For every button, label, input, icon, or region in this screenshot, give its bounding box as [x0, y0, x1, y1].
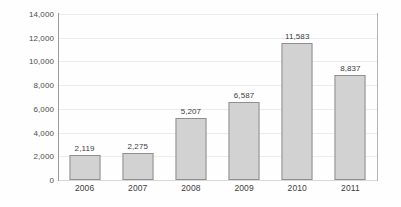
plot-right-border — [377, 13, 378, 181]
bar-value-label: 2,119 — [75, 144, 95, 153]
x-axis-tick-label: 2009 — [218, 183, 271, 193]
bar[interactable] — [175, 118, 206, 180]
x-axis-tick-label: 2011 — [324, 183, 377, 193]
bar-group: 6,587 — [218, 14, 271, 180]
bar[interactable] — [335, 75, 366, 180]
bar[interactable] — [282, 43, 313, 180]
bar-value-label: 6,587 — [234, 91, 255, 100]
plot-area: 2,1192,2755,2076,58711,5838,837 — [58, 14, 377, 180]
y-axis-tick-label: 0 — [0, 176, 54, 185]
y-axis-tick-label: 6,000 — [0, 104, 54, 113]
bar-value-label: 2,275 — [127, 142, 148, 151]
y-axis-tick-label: 8,000 — [0, 81, 54, 90]
bar[interactable] — [229, 102, 260, 180]
bar-group: 2,275 — [111, 14, 164, 180]
y-axis-tick-label: 14,000 — [0, 10, 54, 19]
bar-value-label: 8,837 — [340, 64, 361, 73]
y-axis-tick-label: 2,000 — [0, 152, 54, 161]
x-axis-tick-labels: 200620072008200920102011 — [58, 183, 377, 199]
x-axis-tick-label: 2006 — [58, 183, 111, 193]
y-axis-tick-label: 12,000 — [0, 33, 54, 42]
bar-group: 11,583 — [271, 14, 324, 180]
bar[interactable] — [122, 153, 153, 180]
bar-group: 2,119 — [58, 14, 111, 180]
bar-value-label: 11,583 — [285, 32, 309, 41]
bar-group: 5,207 — [164, 14, 217, 180]
y-axis-tick-label: 10,000 — [0, 57, 54, 66]
bar-group: 8,837 — [324, 14, 377, 180]
bar-value-label: 5,207 — [181, 107, 202, 116]
x-axis-tick-label: 2007 — [111, 183, 164, 193]
x-axis-tick-label: 2008 — [164, 183, 217, 193]
gridline — [58, 180, 377, 181]
bar[interactable] — [69, 155, 100, 180]
bar-chart-figure: 2,1192,2755,2076,58711,5838,837 20062007… — [0, 0, 401, 207]
y-axis-line — [58, 13, 59, 181]
x-axis-tick-label: 2010 — [271, 183, 324, 193]
y-axis-tick-label: 4,000 — [0, 128, 54, 137]
